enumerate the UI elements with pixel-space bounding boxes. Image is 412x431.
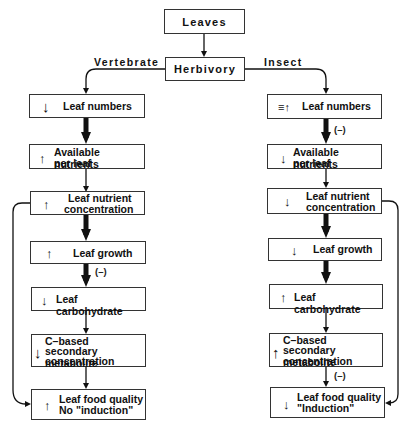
right-leaf-nutrient-conc-box: ↓ Leaf nutrient concentration	[267, 188, 382, 214]
decrease-arrow-icon: ↓	[284, 195, 291, 208]
leaves-label: Leaves	[182, 16, 227, 28]
left-leaf-numbers-box: ↓ Leaf numbers	[29, 94, 145, 118]
decrease-arrow-icon: ↓	[283, 398, 290, 411]
left-leaf-nutrient-conc-box: ↑ Leaf nutrient concentration	[30, 191, 145, 215]
box-label: per leaf	[293, 157, 330, 169]
herbivory-label: Herbivory	[174, 63, 236, 75]
box-label: Leaf growth	[73, 247, 133, 259]
negative-effect-label: (–)	[95, 266, 107, 277]
right-leaf-food-quality-box: ↓ Leaf food quality "Induction"	[270, 387, 385, 418]
box-label: Leaf carbohydrate	[56, 293, 145, 317]
decrease-arrow-icon: ↓	[42, 100, 50, 113]
left-leaf-food-quality-box: ↑ Leaf food quality No "induction"	[31, 389, 146, 420]
right-leaf-growth-box: ↓ Leaf growth	[268, 238, 382, 261]
increase-arrow-icon: ↑	[280, 291, 287, 304]
increase-arrow-icon: ↑	[46, 247, 53, 260]
box-label: "Induction"	[297, 402, 354, 414]
box-label: Leaf carbohydrate	[294, 291, 382, 315]
no-change-or-increase-icon: ≡↑	[278, 101, 290, 114]
increase-arrow-icon: ↑	[272, 346, 280, 359]
decrease-arrow-icon: ↓	[291, 244, 298, 257]
box-label: concentration	[64, 203, 133, 215]
right-leaf-numbers-box: ≡↑ Leaf numbers	[267, 94, 382, 119]
right-c-based-metabolite-box: ↑ C–based secondary metabolite concentra…	[269, 333, 383, 367]
increase-arrow-icon: ↑	[43, 198, 50, 211]
decrease-arrow-icon: ↓	[41, 294, 48, 307]
increase-arrow-icon: ↑	[44, 399, 51, 412]
box-label: concentration	[45, 355, 114, 367]
left-c-based-metabolite-box: ↓ C–based secondary metabolite concentra…	[31, 334, 146, 367]
negative-effect-label: (–)	[334, 370, 346, 381]
box-label: concentration	[306, 201, 375, 213]
left-available-nutrients-box: ↑ Available nutrients per leaf	[29, 144, 145, 169]
increase-arrow-icon: ↑	[39, 152, 46, 165]
negative-effect-label: (–)	[334, 124, 346, 135]
right-leaf-carbohydrate-box: ↑ Leaf carbohydrate	[269, 284, 383, 309]
left-leaf-growth-box: ↑ Leaf growth	[30, 241, 146, 264]
box-label: Leaf growth	[313, 243, 373, 255]
box-label: No "induction"	[59, 404, 133, 416]
right-available-nutrients-box: ↓ Available nutrients per leaf	[267, 144, 382, 169]
box-label: Leaf numbers	[63, 100, 132, 112]
box-label: concentration	[283, 355, 352, 367]
box-label: Leaf numbers	[302, 100, 371, 112]
leaves-box: Leaves	[164, 9, 245, 34]
decrease-arrow-icon: ↓	[34, 346, 42, 359]
herbivory-box: Herbivory	[165, 57, 245, 81]
box-label: per leaf	[54, 157, 91, 169]
decrease-arrow-icon: ↓	[280, 152, 287, 165]
vertebrate-branch-label: Vertebrate	[94, 56, 159, 68]
left-leaf-carbohydrate-box: ↓ Leaf carbohydrate	[31, 287, 146, 311]
insect-branch-label: Insect	[264, 56, 303, 68]
